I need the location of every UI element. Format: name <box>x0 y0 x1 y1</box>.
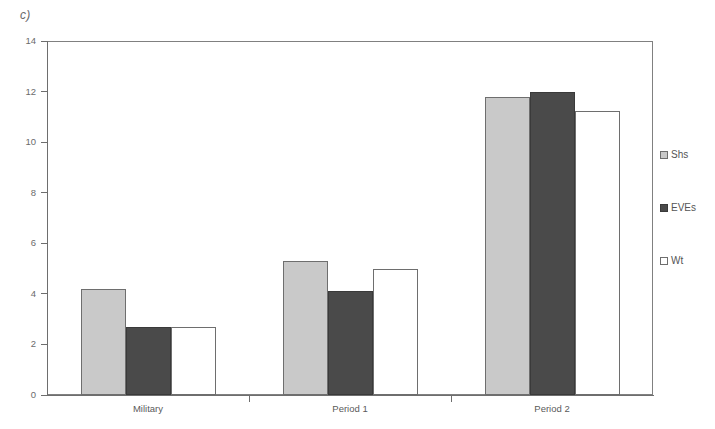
x-axis-category-label: Military <box>98 404 198 414</box>
bar-chart-figure: c) 02468101214 MilitaryPeriod 1Period 2 … <box>0 0 715 429</box>
legend-label: Shs <box>671 150 688 160</box>
legend-swatch-icon <box>660 257 668 265</box>
legend-swatch-icon <box>660 151 668 159</box>
bar-wt-military <box>171 327 216 395</box>
y-axis-label: 10 <box>14 137 36 147</box>
x-axis-category-label: Period 2 <box>502 404 602 414</box>
y-axis-tick <box>41 395 47 396</box>
y-axis-tick <box>41 142 47 143</box>
x-axis-line <box>47 395 654 396</box>
y-axis-tick <box>41 192 47 193</box>
bar-eves-period-1 <box>328 291 373 395</box>
panel-label: c) <box>20 8 30 22</box>
x-axis-category-label: Period 1 <box>300 404 400 414</box>
bar-eves-military <box>126 327 171 395</box>
y-axis-tick <box>41 243 47 244</box>
x-axis-tick <box>451 396 452 402</box>
y-axis-label: 0 <box>14 390 36 400</box>
y-axis-tick <box>41 293 47 294</box>
y-axis-tick <box>41 41 47 42</box>
bar-eves-period-2 <box>530 92 575 395</box>
y-axis-label: 12 <box>14 87 36 97</box>
y-axis-label: 2 <box>14 339 36 349</box>
legend-label: Wt <box>671 256 683 266</box>
y-axis-label: 14 <box>14 36 36 46</box>
bar-wt-period-2 <box>575 111 620 395</box>
bar-shs-military <box>81 289 126 395</box>
y-axis-label: 8 <box>14 188 36 198</box>
x-axis-tick <box>249 396 250 402</box>
legend-item-shs[interactable]: Shs <box>660 150 688 160</box>
bar-wt-period-1 <box>373 269 418 395</box>
legend-label: EVEs <box>671 203 696 213</box>
legend-item-wt[interactable]: Wt <box>660 256 683 266</box>
y-axis-tick <box>41 91 47 92</box>
legend-swatch-icon <box>660 204 668 212</box>
y-axis-line <box>47 41 48 396</box>
y-axis-label: 4 <box>14 289 36 299</box>
bar-shs-period-1 <box>283 261 328 395</box>
y-axis-label: 6 <box>14 238 36 248</box>
bar-shs-period-2 <box>485 97 530 395</box>
y-axis-tick <box>41 344 47 345</box>
legend-item-eves[interactable]: EVEs <box>660 203 696 213</box>
